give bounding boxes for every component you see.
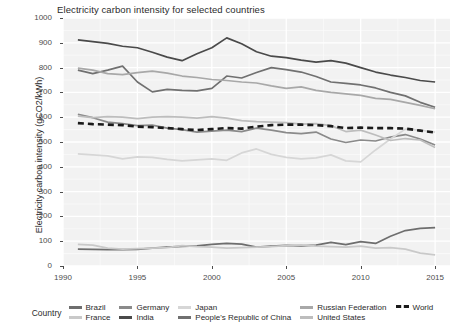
x-tick-label: 2010 <box>345 273 377 282</box>
x-tick-label: 1990 <box>47 273 79 282</box>
legend-item-label: Germany <box>136 303 169 312</box>
x-tick-label: 2005 <box>270 273 302 282</box>
y-tick-label: 600 <box>20 112 52 121</box>
legend-swatch-icon <box>396 305 409 311</box>
y-tick-label: 1000 <box>20 13 52 22</box>
legend-item[interactable]: France <box>69 313 111 322</box>
legend-item[interactable]: World <box>396 303 434 312</box>
y-tick-label: 300 <box>20 187 52 196</box>
x-tick-mark <box>286 266 287 269</box>
legend-item-label: People's Republic of China <box>195 313 291 322</box>
legend-swatch-icon <box>119 316 132 319</box>
legend-item[interactable]: United States <box>300 313 386 322</box>
legend-item-label: United States <box>317 313 365 322</box>
legend-item-label: Japan <box>195 303 217 312</box>
plot-svg <box>63 18 450 266</box>
legend-swatch-icon <box>178 306 191 309</box>
legend-item-label: Brazil <box>86 303 106 312</box>
chart-title: Electricity carbon intensity for selecte… <box>57 4 265 15</box>
legend-item-label: World <box>413 303 434 312</box>
legend-item-label: France <box>86 313 111 322</box>
legend-item[interactable]: Russian Federation <box>300 303 386 312</box>
x-tick-label: 2000 <box>196 273 228 282</box>
legend-swatch-icon <box>300 316 313 319</box>
legend: Country BrazilGermanyJapanRussian Federa… <box>0 303 465 322</box>
y-tick-label: 500 <box>20 137 52 146</box>
legend-swatch-icon <box>69 306 82 309</box>
x-tick-mark <box>63 266 64 269</box>
legend-item[interactable]: India <box>119 313 169 322</box>
legend-item[interactable]: Brazil <box>69 303 111 312</box>
legend-swatch-icon <box>300 306 313 309</box>
plot-area <box>63 18 450 266</box>
legend-item[interactable]: Japan <box>178 303 291 312</box>
y-tick-label: 800 <box>20 63 52 72</box>
x-tick-mark <box>212 266 213 269</box>
y-tick-label: 200 <box>20 211 52 220</box>
x-tick-mark <box>361 266 362 269</box>
y-tick-label: 400 <box>20 162 52 171</box>
legend-item[interactable]: People's Republic of China <box>178 313 291 322</box>
y-tick-label: 0 <box>20 261 52 270</box>
x-tick-label: 2015 <box>419 273 451 282</box>
x-tick-mark <box>435 266 436 269</box>
legend-item-label: India <box>136 313 153 322</box>
legend-items: BrazilGermanyJapanRussian FederationWorl… <box>69 303 434 322</box>
legend-swatch-icon <box>119 306 132 309</box>
legend-title: Country <box>32 308 62 318</box>
x-tick-label: 1995 <box>121 273 153 282</box>
legend-swatch-icon <box>69 316 82 319</box>
y-tick-label: 900 <box>20 38 52 47</box>
legend-item-label: Russian Federation <box>317 303 386 312</box>
chart-root: Electricity carbon intensity for selecte… <box>0 0 465 324</box>
x-tick-mark <box>137 266 138 269</box>
legend-item[interactable]: Germany <box>119 303 169 312</box>
y-tick-label: 100 <box>20 236 52 245</box>
y-tick-label: 700 <box>20 87 52 96</box>
legend-swatch-icon <box>178 316 191 319</box>
